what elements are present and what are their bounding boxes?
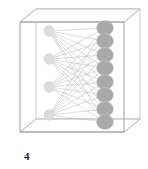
graph-node (97, 102, 114, 117)
figure-caption-label: 4 (24, 149, 30, 163)
graph-node (97, 61, 114, 76)
figure-container: 4 (0, 0, 148, 169)
graph-node (97, 34, 114, 49)
box-top-face (20, 9, 140, 22)
graph-node (44, 54, 54, 65)
graph-node (44, 26, 54, 37)
graph-node (44, 110, 54, 121)
box-bottom-face (20, 119, 140, 132)
graph-node (97, 21, 114, 36)
graph-node (97, 48, 114, 63)
graph-node (97, 88, 114, 103)
graph-node (44, 82, 54, 93)
graph-node (97, 75, 114, 90)
bipartite-graph-in-box-diagram (0, 0, 148, 169)
graph-node (97, 115, 114, 130)
